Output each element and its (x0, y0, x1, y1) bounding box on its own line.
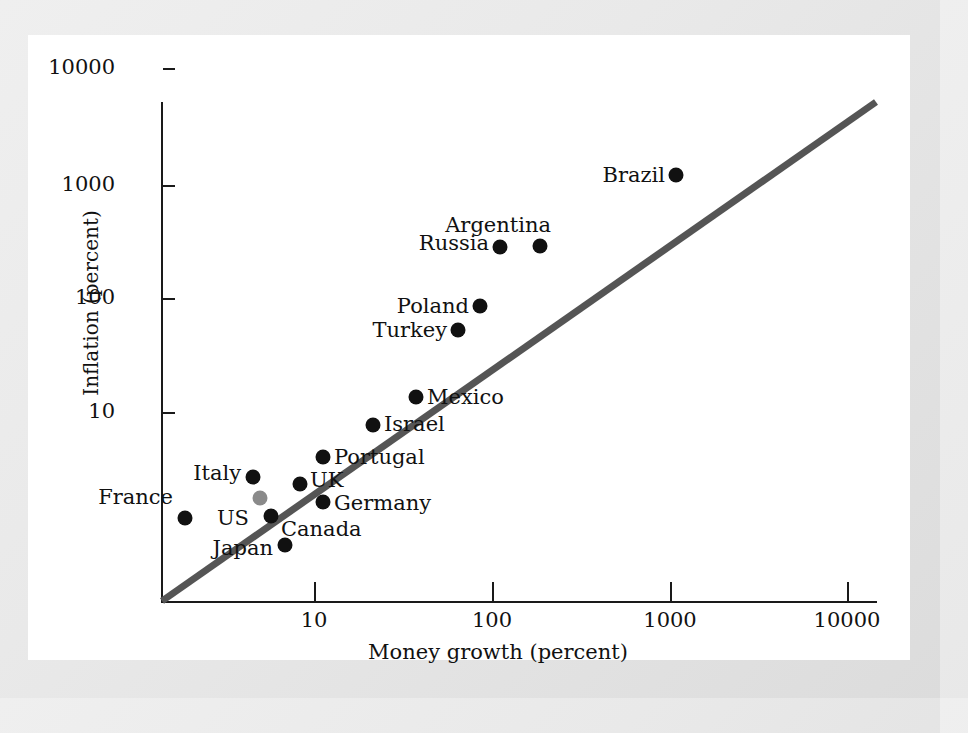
x-axis-spine (161, 601, 877, 603)
datapoint-argentina[interactable] (533, 239, 548, 254)
datapoint-label-argentina: Argentina (445, 213, 551, 237)
datapoint-canada[interactable] (264, 509, 279, 524)
y-axis-spine (161, 102, 163, 603)
datapoint-label-mexico: Mexico (427, 385, 504, 409)
datapoint-label-uk: UK (310, 468, 343, 492)
figure-panel: 10000100010010 10100100010000 FranceItal… (28, 35, 910, 660)
datapoint-label-canada: Canada (281, 517, 362, 541)
datapoint-turkey[interactable] (451, 323, 466, 338)
datapoint-us[interactable] (253, 491, 268, 506)
x-axis-title: Money growth (percent) (28, 640, 968, 664)
y-tick-10 (163, 412, 175, 414)
datapoint-uk[interactable] (293, 477, 308, 492)
datapoint-label-poland: Poland (397, 294, 469, 318)
x-tick-label-10: 10 (264, 608, 364, 632)
datapoint-italy[interactable] (246, 470, 261, 485)
y-axis-title: Inflation (percent) (79, 183, 103, 423)
x-tick-10000 (847, 582, 849, 603)
y-tick-label-10000: 10000 (28, 55, 115, 79)
datapoint-israel[interactable] (366, 418, 381, 433)
datapoint-label-turkey: Turkey (372, 318, 447, 342)
y-tick-100 (163, 298, 175, 300)
x-tick-label-100: 100 (442, 608, 542, 632)
datapoint-france[interactable] (178, 511, 193, 526)
x-tick-100 (492, 582, 494, 603)
x-tick-1000 (670, 582, 672, 603)
datapoint-label-italy: Italy (193, 461, 241, 485)
x-tick-label-10000: 10000 (797, 608, 897, 632)
datapoint-mexico[interactable] (409, 390, 424, 405)
datapoint-label-us: US (217, 506, 249, 530)
datapoint-germany[interactable] (316, 495, 331, 510)
datapoint-label-portugal: Portugal (334, 445, 425, 469)
datapoint-label-germany: Germany (334, 491, 431, 515)
y-tick-1000 (163, 185, 175, 187)
datapoint-portugal[interactable] (316, 450, 331, 465)
datapoint-label-france: France (98, 485, 173, 509)
datapoint-label-japan: Japan (213, 536, 273, 560)
datapoint-poland[interactable] (473, 299, 488, 314)
y-tick-10000 (163, 68, 175, 70)
x-tick-10 (314, 582, 316, 603)
datapoint-japan[interactable] (278, 538, 293, 553)
datapoint-label-israel: Israel (384, 412, 445, 436)
datapoint-label-brazil: Brazil (603, 163, 666, 187)
x-tick-label-1000: 1000 (620, 608, 720, 632)
datapoint-russia[interactable] (493, 240, 508, 255)
datapoint-brazil[interactable] (669, 168, 684, 183)
